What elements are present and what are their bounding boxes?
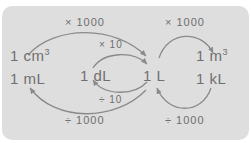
node-1-l-text: 1 L (143, 67, 165, 84)
label-multiply-1000-right: × 1000 (165, 16, 205, 28)
node-1-ml-text: 1 mL (10, 70, 45, 87)
node-1-kl-text: 1 kL (196, 70, 226, 87)
node-1-cm3-exponent: 3 (45, 47, 50, 57)
node-1-m3-exponent: 3 (223, 47, 228, 57)
node-1-kl: 1 kL (196, 70, 226, 87)
node-1-dl-text: 1 dL (80, 67, 111, 84)
label-multiply-1000-left: × 1000 (65, 16, 105, 28)
node-1-m3: 1 m3 (196, 47, 228, 64)
label-divide-1000-left: ÷ 1000 (65, 114, 105, 126)
label-divide-1000-right: ÷ 1000 (165, 114, 205, 126)
node-1-l: 1 L (143, 67, 165, 84)
node-1-cm3: 1 cm3 (10, 47, 50, 64)
node-1-dl: 1 dL (80, 67, 111, 84)
node-1-cm3-text: 1 cm (10, 47, 45, 64)
arrow-path-kl-to-l (157, 88, 211, 108)
label-divide-10: ÷ 10 (99, 94, 122, 105)
node-1-ml: 1 mL (10, 70, 45, 87)
node-1-m3-text: 1 m (196, 47, 223, 64)
label-multiply-10: × 10 (99, 39, 123, 50)
arrow-path-dl-to-l (93, 55, 147, 68)
